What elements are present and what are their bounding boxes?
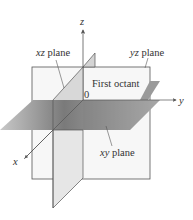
coordinate-planes-diagram: z y x 0 xz plane yz plane xy plane First…: [0, 0, 193, 220]
z-axis-label: z: [79, 16, 84, 27]
xz-plane-label: xz plane: [35, 47, 70, 58]
x-axis-label: x: [12, 156, 18, 167]
yz-plane-leader: [145, 58, 148, 68]
xz-plane-lower: [53, 130, 83, 208]
origin-label: 0: [84, 89, 89, 100]
xy-plane-label: xy plane: [99, 147, 135, 158]
yz-plane-label: yz plane: [129, 47, 164, 58]
xz-plane-back: [83, 53, 95, 67]
y-axis-label: y: [178, 95, 184, 106]
first-octant-label: First octant: [92, 78, 140, 89]
